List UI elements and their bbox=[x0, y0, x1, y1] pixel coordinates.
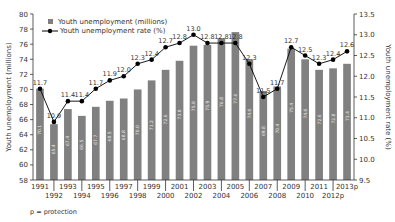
bar-value-label: 75.8 bbox=[191, 101, 196, 111]
bar-value-label: 77.6 bbox=[233, 94, 238, 104]
rate-point bbox=[177, 41, 182, 46]
rate-point-label: 12.7 bbox=[284, 37, 298, 45]
y-tick-label-right: 12.5 bbox=[359, 52, 375, 60]
rate-point-label: 11.7 bbox=[33, 79, 47, 87]
y-tick-label-left: 64 bbox=[19, 131, 28, 139]
rate-point-label: 11.9 bbox=[103, 70, 117, 78]
x-tick-label: 2002 bbox=[185, 192, 203, 200]
footnote: p = protection bbox=[30, 208, 77, 216]
rate-point-label: 12.8 bbox=[228, 33, 242, 41]
rate-point bbox=[331, 57, 336, 62]
bar-value-label: 68.5 bbox=[107, 131, 112, 141]
bar-value-label: 73.4 bbox=[345, 111, 350, 121]
rate-point-label: 11.5 bbox=[256, 87, 270, 95]
bar-value-label: 74.0 bbox=[303, 108, 308, 118]
y-tick-label-right: 11.0 bbox=[359, 114, 375, 122]
y-tick-label-right: 13.5 bbox=[359, 11, 375, 19]
bar-value-label: 70.4 bbox=[275, 123, 280, 133]
rate-point-label: 12.4 bbox=[144, 50, 158, 58]
bar-value-label: 74.0 bbox=[247, 108, 252, 118]
y-tick-label-left: 70 bbox=[19, 86, 28, 94]
rate-point bbox=[149, 57, 154, 62]
rate-point-label: 12.3 bbox=[130, 54, 144, 62]
bar-value-label: 72.8 bbox=[331, 113, 336, 123]
x-tick-label: 1991 bbox=[31, 183, 49, 191]
x-tick-label: 2007 bbox=[254, 183, 272, 191]
x-tick-label: 2005 bbox=[226, 183, 244, 191]
x-tick-label: 2008 bbox=[268, 192, 286, 200]
x-tick-label: 1993 bbox=[59, 183, 77, 191]
bar-value-label: 65.4 bbox=[51, 144, 56, 154]
legend-label-line: Youth unemployment rate (%) bbox=[59, 27, 166, 35]
bar bbox=[287, 49, 295, 180]
y-tick-label-right: 12.0 bbox=[359, 73, 375, 81]
rate-point-label: 12.8 bbox=[200, 33, 214, 41]
y-tick-label-right: 10.5 bbox=[359, 135, 375, 143]
bar bbox=[204, 45, 212, 180]
rate-point-label: 11.7 bbox=[270, 79, 284, 87]
bar-value-label: 71.2 bbox=[149, 120, 154, 130]
y-tick-label-left: 72 bbox=[19, 71, 28, 79]
y-tick-label-left: 76 bbox=[19, 41, 28, 49]
rate-point-label: 12.3 bbox=[312, 54, 326, 62]
bar-value-label: 70.1 bbox=[37, 125, 42, 135]
rate-point bbox=[205, 41, 210, 46]
rate-point-label: 12.7 bbox=[158, 37, 172, 45]
bar-value-label: 68.8 bbox=[121, 130, 126, 140]
rate-point-label: 11.4 bbox=[61, 91, 75, 99]
bar bbox=[301, 59, 309, 180]
x-tick-label: 2009 bbox=[282, 183, 300, 191]
rate-point bbox=[80, 99, 85, 104]
bar-value-label: 75.4 bbox=[289, 103, 294, 113]
x-tick-label: 1999 bbox=[143, 183, 161, 191]
rate-point bbox=[247, 62, 252, 67]
legend-swatch-marker bbox=[48, 29, 52, 33]
x-tick-label: 2013p bbox=[336, 183, 359, 191]
bar-value-label: 67.4 bbox=[65, 136, 70, 146]
x-tick-label: 1996 bbox=[101, 192, 119, 200]
x-tick-label: 2006 bbox=[240, 192, 258, 200]
y-axis-title-right: Youth unemployment rate (%) bbox=[384, 43, 392, 150]
x-tick-label: 1994 bbox=[73, 192, 91, 200]
rate-point-label: 12.4 bbox=[326, 50, 340, 58]
rate-point-label: 12.3 bbox=[242, 54, 256, 62]
y-axis-title-left: Youth unemployment (millions) bbox=[5, 42, 13, 153]
y-tick-label-left: 62 bbox=[19, 146, 28, 154]
rate-point bbox=[52, 120, 57, 125]
bar bbox=[190, 46, 198, 180]
legend: Youth unemployment (millions) Youth unem… bbox=[42, 18, 168, 35]
y-tick-label-left: 58 bbox=[19, 177, 28, 185]
rate-point bbox=[38, 86, 43, 91]
y-tick-label-left: 60 bbox=[19, 161, 28, 169]
y-tick-label-left: 78 bbox=[19, 26, 28, 34]
rate-point bbox=[191, 32, 196, 37]
rate-point bbox=[66, 99, 71, 104]
rate-point bbox=[233, 41, 238, 46]
rate-point-label: 11.7 bbox=[89, 79, 103, 87]
y-tick-label-right: 11.5 bbox=[359, 94, 375, 102]
rate-point bbox=[94, 86, 99, 91]
x-tick-label: 1995 bbox=[87, 183, 105, 191]
x-tick-label: 2003 bbox=[199, 183, 217, 191]
bar-value-label: 67.7 bbox=[93, 135, 98, 145]
y-tick-label-right: 10.0 bbox=[359, 156, 375, 164]
x-tick-label: 2011 bbox=[310, 183, 328, 191]
rate-point-label: 10.9 bbox=[47, 112, 61, 120]
rate-point bbox=[121, 74, 126, 79]
x-tick-label: 2012p bbox=[322, 192, 345, 200]
y-tick-label-left: 66 bbox=[19, 116, 28, 124]
bar-value-label: 72.6 bbox=[317, 114, 322, 124]
bar-value-label: 66.5 bbox=[79, 140, 84, 150]
bar-value-label: 72.6 bbox=[163, 114, 168, 124]
rate-point-label: 12.6 bbox=[340, 41, 354, 49]
y-tick-label-left: 68 bbox=[19, 101, 28, 109]
bar bbox=[232, 32, 240, 180]
y-tick-label-right: 13.0 bbox=[359, 31, 375, 39]
rate-point-label: 13.0 bbox=[186, 25, 200, 33]
rate-point-label: 12.0 bbox=[116, 66, 130, 74]
y-tick-label-left: 80 bbox=[19, 11, 28, 19]
rate-point-label: 12.5 bbox=[298, 46, 312, 54]
legend-swatch-bar bbox=[48, 19, 53, 24]
rate-point bbox=[317, 62, 322, 67]
combo-chart: 70.165.467.466.567.768.568.870.071.272.6… bbox=[0, 0, 395, 222]
